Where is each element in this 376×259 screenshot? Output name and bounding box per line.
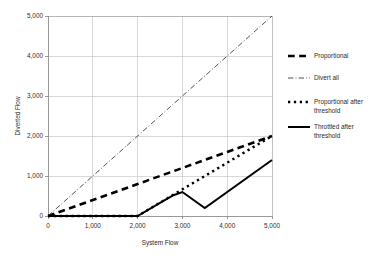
ytick-label-5000: 5,000	[27, 12, 43, 19]
legend-label-throttled-after-threshold: Throttled after	[314, 123, 355, 130]
x-axis-title: System Flow	[142, 239, 179, 247]
legend-label-proportional-after-threshold-line2: threshold	[314, 107, 341, 114]
ytick-label-2000: 2,000	[27, 132, 43, 139]
xtick-label-3000: 3,000	[174, 222, 190, 229]
legend-label-divert-all: Divert all	[314, 74, 339, 81]
ytick-label-0: 0	[39, 212, 43, 219]
xtick-label-0: 0	[46, 222, 50, 229]
ytick-label-3000: 3,000	[27, 92, 43, 99]
ytick-label-4000: 4,000	[27, 52, 43, 59]
y-axis-title: Diverted Flow	[14, 96, 21, 135]
legend-label-throttled-after-threshold-line2: threshold	[314, 132, 341, 139]
legend-label-proportional: Proportional	[314, 52, 348, 60]
ytick-label-1000: 1,000	[27, 172, 43, 179]
chart-container: 5,000 4,000 3,000 2,000 1,000 0 0 1,000 …	[0, 0, 376, 259]
diverted-flow-line-chart: 5,000 4,000 3,000 2,000 1,000 0 0 1,000 …	[0, 0, 376, 259]
xtick-label-1000: 1,000	[85, 222, 101, 229]
xtick-label-2000: 2,000	[130, 222, 146, 229]
legend-label-proportional-after-threshold: Proportional after	[314, 98, 364, 106]
xtick-label-4000: 4,000	[219, 222, 235, 229]
xtick-label-5000: 5,000	[264, 222, 280, 229]
